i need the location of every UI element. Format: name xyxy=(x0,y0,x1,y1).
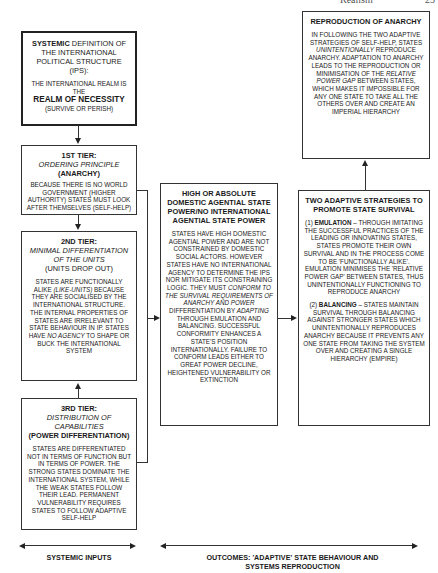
tier1-title: 1ST TIER: xyxy=(26,151,132,160)
arrow-left-icon xyxy=(19,543,25,549)
tier3-title: 3RD TIER: xyxy=(26,404,132,413)
agential-title: HIGH OR ABSOLUTE DOMESTIC AGENTIAL STATE… xyxy=(165,189,273,225)
reproduction-title: REPRODUCTION OF ANARCHY xyxy=(307,17,425,26)
bracket-vertical xyxy=(147,190,148,463)
arrow-right-icon xyxy=(130,543,136,549)
tier2-title: 2ND TIER: xyxy=(26,237,132,246)
systemic-definition-box: SYSTEMIC DEFINITION OF THE INTERNATIONAL… xyxy=(21,31,137,126)
arrow-right-icon xyxy=(412,543,418,549)
arrow-right-icon xyxy=(291,315,297,321)
tier1-label: (ANARCHY) xyxy=(26,169,132,178)
survive-or-perish: (SURVIVE OR PERISH) xyxy=(27,105,131,113)
connector-line xyxy=(278,318,292,319)
systemic-bold: SYSTEMIC xyxy=(32,39,70,48)
connector-line xyxy=(365,165,366,190)
tier3-subtitle: DISTRIBUTION OF CAPABILITIES xyxy=(26,413,132,431)
tier2-body: STATES ARE FUNCTIONALLY ALIKE (LIKE-UNIT… xyxy=(26,278,132,355)
arrow-down-icon xyxy=(75,224,81,230)
tier3-box: 3RD TIER: DISTRIBUTION OF CAPABILITIES (… xyxy=(21,398,137,530)
reproduction-box: REPRODUCTION OF ANARCHY IN FOLLOWING THE… xyxy=(302,11,430,159)
strategies-title: TWO ADAPTIVE STRATEGIES TO PROMOTE STATE… xyxy=(303,196,425,214)
tier2-label: (UNITS DROP OUT) xyxy=(26,264,132,273)
tier3-body: STATES ARE DIFFERENTIATED NOT IN TERMS O… xyxy=(26,445,132,522)
realm-of-necessity: REALM OF NECESSITY xyxy=(27,95,131,105)
bracket-bottom xyxy=(137,462,148,463)
tier1-body: BECAUSE THERE IS NO WORLD GOVERNMENT (HI… xyxy=(26,181,132,212)
arrow-left-icon xyxy=(160,543,166,549)
realm-text: THE INTERNATIONAL REALM IS THE xyxy=(27,80,131,95)
running-title: Realism xyxy=(340,0,373,5)
tier1-subtitle: ORDERING PRINCIPLE xyxy=(26,160,132,169)
outcomes-label: OUTCOMES: 'ADAPTIVE' STATE BEHAVIOUR AND… xyxy=(190,553,395,571)
connector-line xyxy=(78,388,79,398)
arrow-down-icon xyxy=(75,138,81,144)
tier2-box: 2ND TIER: MINIMAL DIFFERENTIATION OF THE… xyxy=(21,231,137,381)
tier3-label: (POWER DIFFERENTIATION) xyxy=(26,431,132,440)
balancing-text: (2) BALANCING – STATES MAINTAIN SURVIVAL… xyxy=(303,301,425,363)
page-header: Realism 25 xyxy=(340,0,435,5)
strategies-box: TWO ADAPTIVE STRATEGIES TO PROMOTE STATE… xyxy=(298,190,430,426)
agential-power-box: HIGH OR ABSOLUTE DOMESTIC AGENTIAL STATE… xyxy=(160,183,278,426)
systemic-inputs-label: SYSTEMIC INPUTS xyxy=(20,553,138,562)
tier1-box: 1ST TIER: ORDERING PRINCIPLE (ANARCHY) B… xyxy=(21,145,137,215)
inputs-span-line xyxy=(24,545,130,546)
agential-body: STATES HAVE HIGH DOMESTIC AGENTIAL POWER… xyxy=(165,230,273,384)
tier2-subtitle: MINIMAL DIFFERENTIATION OF THE UNITS xyxy=(26,246,132,264)
outcomes-span-line xyxy=(165,545,412,546)
emulation-text: (1) EMULATION – THROUGH IMITATING THE SU… xyxy=(303,219,425,296)
reproduction-body: IN FOLLOWING THE TWO ADAPTIVE STRATEGIES… xyxy=(307,31,425,116)
page-number: 25 xyxy=(425,0,435,5)
